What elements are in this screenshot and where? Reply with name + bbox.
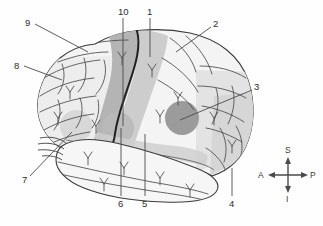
label-7: 7	[22, 175, 27, 185]
label-1: 1	[147, 7, 152, 17]
compass-label-posterior: P	[310, 171, 316, 180]
compass-label-inferior: I	[286, 195, 288, 204]
compass-arrow-anterior	[268, 172, 275, 178]
brain-illustration	[0, 0, 323, 226]
compass-label-superior: S	[285, 146, 291, 155]
label-4: 4	[229, 199, 234, 209]
compass-arrow-posterior	[301, 172, 308, 178]
compass-label-anterior: A	[258, 171, 264, 180]
compass-arrow-superior	[285, 157, 291, 164]
compass-arrow-inferior	[285, 186, 291, 193]
label-9: 9	[25, 18, 30, 28]
orientation-compass	[268, 157, 308, 193]
label-3: 3	[254, 82, 259, 92]
label-2: 2	[213, 19, 218, 29]
label-5: 5	[142, 199, 147, 209]
label-6: 6	[118, 199, 123, 209]
label-8: 8	[14, 61, 19, 71]
brain-diagram-figure: 10 1 2 3 4 5 6 7 8 9 S I A P	[0, 0, 323, 226]
label-10: 10	[118, 7, 129, 17]
leader-9	[35, 24, 88, 52]
